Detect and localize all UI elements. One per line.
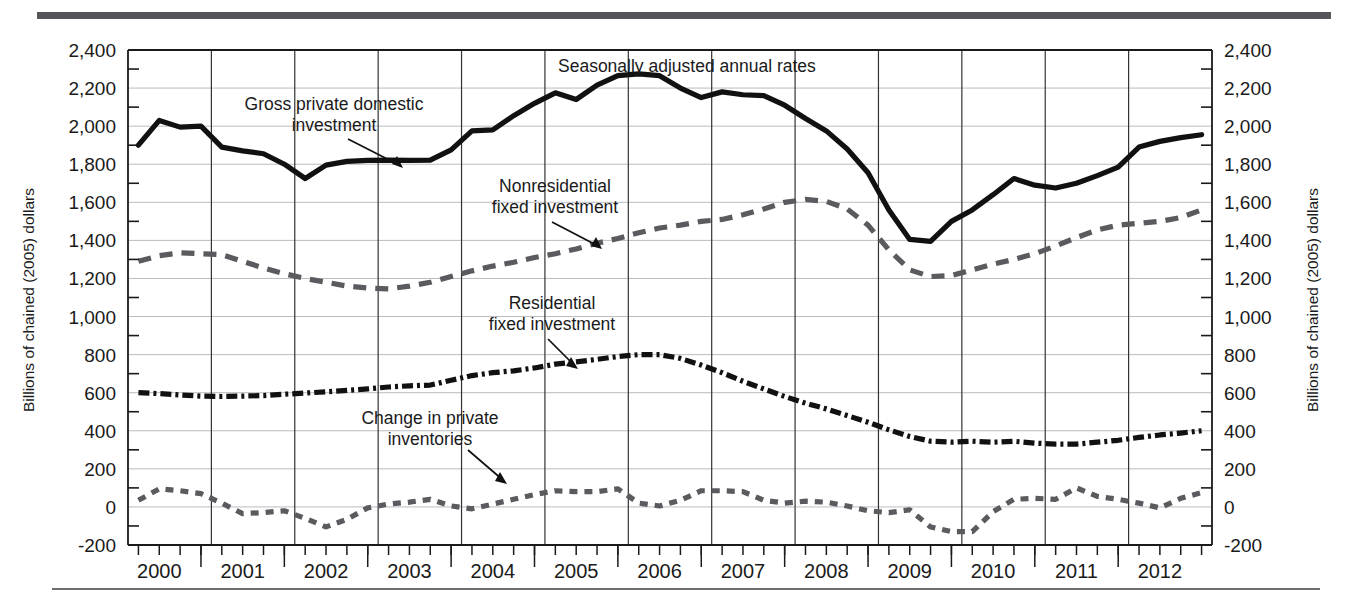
x-year-label: 2007 — [721, 560, 766, 582]
y-tick-label-right: 1,600 — [1224, 192, 1272, 213]
y-tick-label-left: 400 — [84, 421, 116, 442]
x-year-label: 2010 — [971, 560, 1016, 582]
right-axis-title: Billions of chained (2005) dollars — [1304, 188, 1321, 412]
annotation-gpdi-line1: Gross private domestic — [245, 94, 424, 114]
y-tick-label-left: 1,600 — [68, 192, 116, 213]
y-tick-label-left: -200 — [78, 535, 116, 556]
x-year-label: 2002 — [304, 560, 349, 582]
y-tick-label-right: -200 — [1224, 535, 1262, 556]
y-tick-label-right: 600 — [1224, 383, 1256, 404]
series-line-3 — [138, 488, 1201, 532]
y-tick-label-right: 400 — [1224, 421, 1256, 442]
series-lines — [138, 74, 1201, 532]
y-tick-label-right: 0 — [1224, 497, 1235, 518]
y-tick-label-left: 1,400 — [68, 230, 116, 251]
x-year-label: 2012 — [1138, 560, 1183, 582]
y-tick-label-right: 2,400 — [1224, 40, 1272, 61]
y-tick-label-left: 1,800 — [68, 154, 116, 175]
x-year-label: 2000 — [137, 560, 182, 582]
left-axis-title: Billions of chained (2005) dollars — [20, 188, 37, 412]
y-tick-label-right: 1,200 — [1224, 268, 1272, 289]
x-year-label: 2006 — [637, 560, 682, 582]
series-line-1 — [138, 199, 1201, 288]
annotation-res: Residential fixed investment — [489, 293, 616, 369]
y-tick-label-right: 1,400 — [1224, 230, 1272, 251]
annotation-nonres: Nonresidential fixed investment — [492, 176, 619, 249]
annotation-gpdi-line2: investment — [292, 115, 377, 135]
y-tick-label-right: 1,000 — [1224, 307, 1272, 328]
x-year-label: 2004 — [471, 560, 516, 582]
y-tick-label-left: 2,400 — [68, 40, 116, 61]
chart-svg: -200-200002002004004006006008008001,0001… — [0, 0, 1348, 615]
x-year-label: 2008 — [804, 560, 849, 582]
x-year-label: 2001 — [220, 560, 265, 582]
y-tick-label-right: 1,800 — [1224, 154, 1272, 175]
y-tick-label-right: 2,000 — [1224, 116, 1272, 137]
investment-chart: -200-200002002004004006006008008001,0001… — [0, 0, 1348, 615]
x-year-label: 2011 — [1055, 560, 1098, 582]
annotation-res-line2: fixed investment — [489, 314, 616, 334]
annotation-inv-line1: Change in private — [361, 408, 498, 428]
y-tick-label-left: 0 — [105, 497, 116, 518]
seasonally-adjusted-note: Seasonally adjusted annual rates — [558, 56, 816, 76]
y-tick-label-right: 200 — [1224, 459, 1256, 480]
y-tick-label-left: 2,200 — [68, 78, 116, 99]
annotation-nonres-line2: fixed investment — [492, 197, 619, 217]
y-tick-label-left: 1,000 — [68, 307, 116, 328]
y-tick-label-left: 600 — [84, 383, 116, 404]
x-year-label: 2003 — [387, 560, 432, 582]
y-tick-label-right: 2,200 — [1224, 78, 1272, 99]
x-year-label: 2005 — [554, 560, 599, 582]
y-tick-label-left: 200 — [84, 459, 116, 480]
y-tick-label-left: 800 — [84, 345, 116, 366]
gridlines — [128, 50, 1212, 507]
annotation-inv-line2: inventories — [388, 429, 473, 449]
annotation-inv: Change in private inventories — [361, 408, 507, 484]
annotation-nonres-line1: Nonresidential — [499, 176, 611, 196]
y-tick-label-left: 2,000 — [68, 116, 116, 137]
x-year-label: 2009 — [887, 560, 932, 582]
axes — [128, 50, 1212, 545]
annotation-res-line1: Residential — [509, 293, 596, 313]
y-tick-label-right: 800 — [1224, 345, 1256, 366]
tick-marks — [128, 69, 1212, 567]
y-tick-label-left: 1,200 — [68, 268, 116, 289]
